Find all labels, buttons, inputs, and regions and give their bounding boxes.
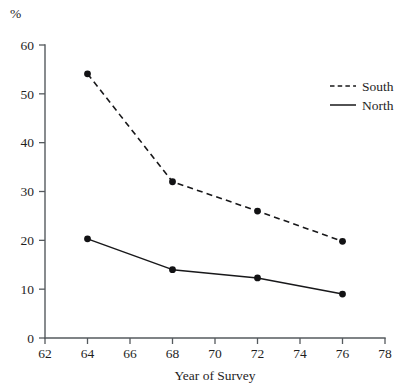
data-point-marker <box>254 208 261 215</box>
y-tick-label: 60 <box>21 38 35 53</box>
legend-label-north: North <box>362 98 394 113</box>
x-tick-label: 70 <box>208 346 222 361</box>
data-series-group <box>84 70 346 297</box>
x-tick-label: 64 <box>81 346 95 361</box>
x-axis-title: Year of Survey <box>174 368 255 383</box>
x-tick-label: 66 <box>123 346 137 361</box>
chart-legend: SouthNorth <box>330 79 394 113</box>
chart-canvas: % 0102030405060 626466687072747678 Year … <box>0 0 410 387</box>
data-point-marker <box>169 266 176 273</box>
y-tick-label: 0 <box>27 331 34 346</box>
y-tick-label: 30 <box>21 184 35 199</box>
y-tick-label: 50 <box>21 87 35 102</box>
legend-label-south: South <box>362 79 394 94</box>
x-tick-label: 72 <box>251 346 265 361</box>
data-point-marker <box>339 291 346 298</box>
data-point-marker <box>169 178 176 185</box>
data-point-marker <box>84 70 91 77</box>
data-point-marker <box>254 275 261 282</box>
y-tick-label: 40 <box>21 135 35 150</box>
x-tick-label: 74 <box>293 346 307 361</box>
x-tick-label: 76 <box>336 346 350 361</box>
x-tick-label: 78 <box>378 346 392 361</box>
x-tick-label: 68 <box>166 346 180 361</box>
line-chart: % 0102030405060 626466687072747678 Year … <box>0 0 410 387</box>
x-axis-ticks: 626466687072747678 <box>38 338 392 361</box>
series-line-north <box>88 239 343 294</box>
data-point-marker <box>339 238 346 245</box>
x-tick-label: 62 <box>38 346 52 361</box>
y-axis-label: % <box>10 6 21 21</box>
data-point-marker <box>84 235 91 242</box>
series-line-south <box>88 74 343 242</box>
y-axis-ticks: 0102030405060 <box>21 38 46 346</box>
y-tick-label: 10 <box>21 282 35 297</box>
y-tick-label: 20 <box>21 233 35 248</box>
